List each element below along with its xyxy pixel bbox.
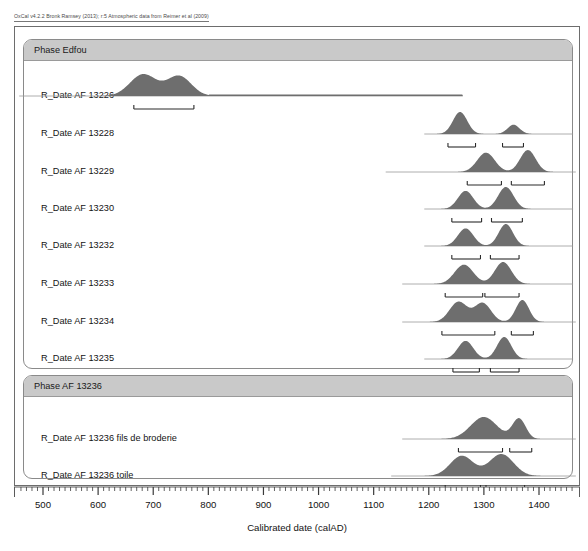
axis-tick-label-900: 900 (255, 499, 271, 510)
oxcal-credit-line: OxCal v4.2.2 Bronk Ramsey (2013); r:5 At… (14, 13, 209, 22)
axis-tick-label-1400: 1400 (528, 499, 549, 510)
row-label-1: R_Date AF 13228 (41, 128, 114, 138)
axis-tick-label-800: 800 (200, 499, 216, 510)
phase-title-text: Phase AF 13236 (34, 381, 102, 391)
phase-title-text: Phase Edfou (34, 45, 87, 55)
axis-tick-label-1200: 1200 (418, 499, 439, 510)
row-label-6: R_Date AF 13234 (41, 316, 114, 326)
row-label-0: R_Date AF 13226 (41, 90, 114, 100)
axis-tick-label-700: 700 (145, 499, 161, 510)
row-label-2: R_Date AF 13229 (41, 166, 114, 176)
axis-tick-label-500: 500 (35, 499, 51, 510)
axis-title: Calibrated date (calAD) (14, 522, 580, 533)
phase-box-phase-af-13236: Phase AF 13236 (23, 375, 573, 479)
row-label-9: R_Date AF 13236 toile (41, 470, 133, 480)
phase-header-phase-af-13236: Phase AF 13236 (24, 376, 572, 397)
axis-tick-label-600: 600 (90, 499, 106, 510)
row-label-5: R_Date AF 13233 (41, 278, 114, 288)
row-label-7: R_Date AF 13235 (41, 353, 114, 363)
row-label-3: R_Date AF 13230 (41, 203, 114, 213)
plot-frame: Phase EdfouPhase AF 13236 R_Date AF 1322… (14, 26, 580, 486)
phase-header-phase-edfou: Phase Edfou (24, 40, 572, 61)
plot-canvas: Phase EdfouPhase AF 13236 R_Date AF 1322… (15, 27, 581, 487)
axis-tick-label-1000: 1000 (308, 499, 329, 510)
x-axis: 50060070080090010001100120013001400 Cali… (14, 486, 580, 551)
axis-tick-label-1300: 1300 (473, 499, 494, 510)
row-label-8: R_Date AF 13236 fils de broderie (41, 433, 177, 443)
axis-tick-label-1100: 1100 (363, 499, 384, 510)
row-label-4: R_Date AF 13232 (41, 240, 114, 250)
